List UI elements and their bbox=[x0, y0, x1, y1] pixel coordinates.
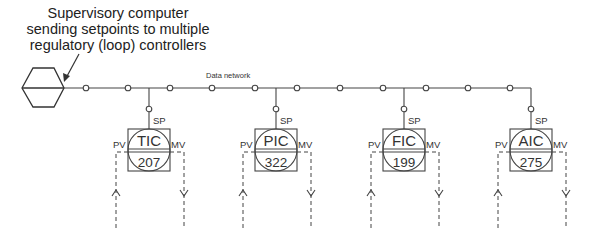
controller-tag: PIC bbox=[263, 132, 288, 149]
pv-signal-line bbox=[498, 152, 510, 228]
controller-fic-199: SPPVMVFIC199 bbox=[367, 88, 443, 228]
mv-signal-line bbox=[170, 152, 184, 228]
pv-label: PV bbox=[240, 139, 253, 150]
caption-pointer-arrow bbox=[63, 54, 79, 82]
pv-signal-line bbox=[243, 152, 255, 228]
supervisory-computer-icon bbox=[22, 68, 64, 107]
controller-number: 275 bbox=[520, 155, 543, 170]
sp-node bbox=[273, 106, 279, 112]
controller-number: 199 bbox=[393, 155, 416, 170]
diagram-canvas: Supervisory computer sending setpoints t… bbox=[0, 0, 592, 233]
sp-label: SP bbox=[280, 115, 293, 126]
mv-signal-line bbox=[552, 152, 566, 228]
sp-node bbox=[146, 106, 152, 112]
pv-label: PV bbox=[495, 139, 508, 150]
data-network-bus bbox=[64, 85, 531, 106]
pv-label: PV bbox=[113, 139, 126, 150]
controller-tag: TIC bbox=[137, 132, 161, 149]
controller-number: 322 bbox=[265, 155, 288, 170]
mv-label: MV bbox=[298, 139, 313, 150]
mv-signal-line bbox=[425, 152, 439, 228]
mv-label: MV bbox=[553, 139, 568, 150]
controller-pic-322: SPPVMVPIC322 bbox=[239, 88, 315, 228]
controller-tag: FIC bbox=[392, 132, 416, 149]
sp-label: SP bbox=[408, 115, 421, 126]
sp-label: SP bbox=[153, 115, 166, 126]
controller-tic-207: SPPVMVTIC207 bbox=[112, 88, 188, 228]
network-diagram: Data network SPPVMVTIC207 SPPVMVPIC322 S… bbox=[0, 0, 592, 233]
controller-tag: AIC bbox=[518, 132, 543, 149]
sp-label: SP bbox=[535, 115, 548, 126]
sp-node bbox=[401, 106, 407, 112]
controller-aic-275: SPPVMVAIC275 bbox=[494, 106, 570, 228]
data-network-label: Data network bbox=[206, 71, 250, 80]
mv-label: MV bbox=[426, 139, 441, 150]
pv-label: PV bbox=[368, 139, 381, 150]
mv-label: MV bbox=[171, 139, 186, 150]
mv-signal-line bbox=[297, 152, 311, 228]
controller-number: 207 bbox=[138, 155, 161, 170]
sp-node bbox=[528, 106, 534, 112]
pv-signal-line bbox=[371, 152, 383, 228]
pv-signal-line bbox=[116, 152, 128, 228]
